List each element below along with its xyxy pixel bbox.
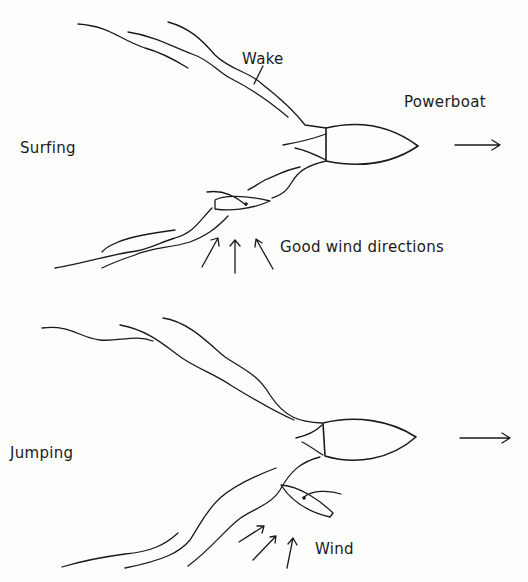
transom-spray [283,134,326,145]
direction-arrow-icon [455,140,500,150]
good-wind-directions-label: Good wind directions [280,238,444,256]
powerboat-hull [323,419,416,460]
sailor-mast-dot [244,202,248,206]
wind-arrows [239,526,297,568]
transom-spray [302,442,323,455]
jumping-title: Jumping [10,444,73,462]
diagram-drawing [0,0,528,582]
powerboat-label: Powerboat [404,93,486,111]
lower-wake-line [55,208,212,268]
transom-spray [295,148,326,160]
wind-arrow-icon [287,538,297,568]
surfing-title: Surfing [20,139,76,157]
sailboard-board [215,196,270,209]
wind-arrow-icon [253,536,276,560]
direction-arrow-icon [460,433,510,443]
lower-wake-line [62,533,178,567]
wind-arrow-icon [202,238,219,267]
transom-spray [296,425,322,438]
sailboard-board [281,485,333,517]
wind-arrow-icon [255,239,273,269]
good-wind-arrows [202,238,273,273]
wind-arrow-icon [230,240,240,273]
powerboat-hull [326,124,418,164]
upper-wake-line [128,32,288,117]
wake-label: Wake [242,50,284,68]
upper-wake-line [163,318,322,423]
sailboard-sail [207,192,246,205]
lower-wake-line [248,167,300,190]
diagram-canvas: Wake Powerboat Surfing Good wind directi… [0,0,528,582]
lower-wake-line [102,230,175,252]
lower-wake-line [125,468,276,568]
upper-wake-line [168,22,326,128]
jumping-panel [42,318,510,568]
sailor-mast-dot [302,496,306,500]
wind-arrow-icon [239,526,264,542]
sailboard-sail [304,491,341,497]
wind-label: Wind [315,540,354,558]
